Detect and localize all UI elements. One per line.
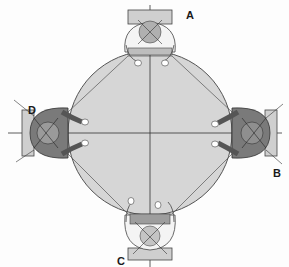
- label-c: C: [117, 255, 125, 267]
- label-d: D: [28, 104, 36, 116]
- seating-diagram: A B C D: [0, 0, 289, 267]
- diagram-canvas: A B C D: [0, 0, 289, 267]
- label-b: B: [273, 167, 281, 179]
- label-a: A: [186, 9, 194, 21]
